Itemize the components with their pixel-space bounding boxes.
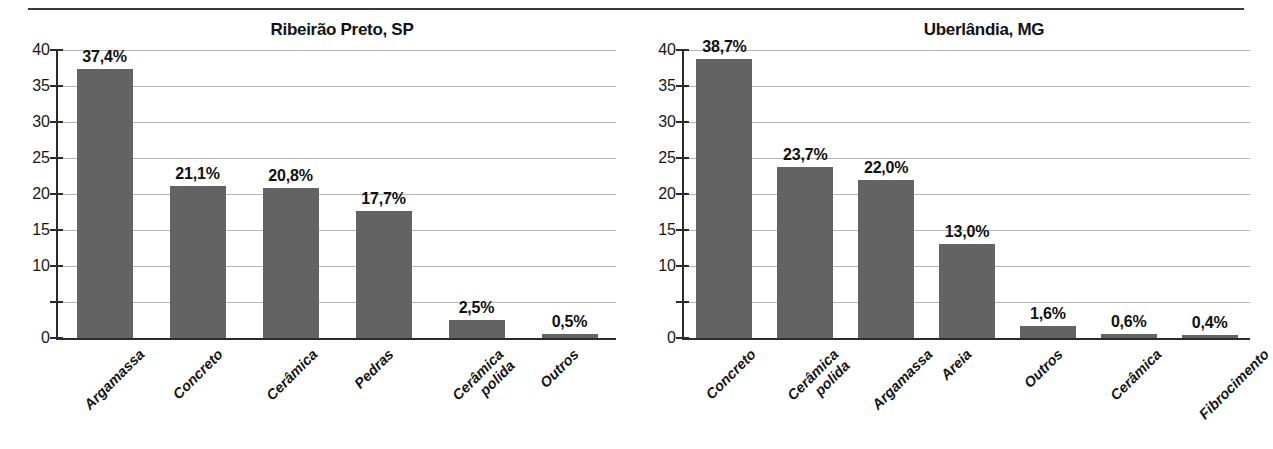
bar-value-label: 13,0% xyxy=(945,223,989,241)
y-axis-tick-label: 20 xyxy=(32,186,50,202)
bar xyxy=(1182,335,1238,338)
bar-series-left: 37,4%21,1%20,8%17,7%2,5%0,5% xyxy=(58,50,616,338)
grid-area-right: 38,7%23,7%22,0%13,0%1,6%0,6%0,4% xyxy=(684,50,1250,340)
x-axis-baseline-left xyxy=(58,338,616,340)
x-axis-category-label: Cerâmicapolida xyxy=(784,346,853,415)
bar-value-label: 0,4% xyxy=(1192,314,1228,332)
y-axis-tick-label: 10 xyxy=(32,258,50,274)
bar-group: 37,4% xyxy=(58,50,151,338)
x-axis-category-label: Outros xyxy=(537,346,582,391)
plot-area-left: 010152025303540 37,4%21,1%20,8%17,7%2,5%… xyxy=(16,50,616,340)
x-axis-category-label: Concreto xyxy=(703,346,759,402)
y-axis-tick xyxy=(676,337,689,339)
bar-value-label: 2,5% xyxy=(459,299,495,317)
y-axis-tick xyxy=(50,229,63,231)
x-axis-label-slot: Argamassa xyxy=(846,342,927,449)
y-axis-tick-label: 15 xyxy=(32,222,50,238)
bar xyxy=(356,211,412,338)
x-axis-label-slot: Cerâmicapolida xyxy=(430,342,523,449)
bar-value-label: 20,8% xyxy=(268,167,312,185)
bar-group: 0,4% xyxy=(1169,50,1250,338)
bar-value-label: 1,6% xyxy=(1030,305,1066,323)
bar xyxy=(449,320,505,338)
chart-title-right: Uberlândia, MG xyxy=(632,20,1273,40)
x-axis-category-label: Concreto xyxy=(170,346,226,402)
y-axis-tick-label: 10 xyxy=(658,258,676,274)
x-axis-baseline-right xyxy=(684,338,1250,340)
x-axis-label-slot: Concreto xyxy=(151,342,244,449)
bar-value-label: 23,7% xyxy=(783,146,827,164)
y-axis-tick-label: 15 xyxy=(658,222,676,238)
y-axis-tick-label: 35 xyxy=(658,78,676,94)
y-axis-tick xyxy=(676,121,689,123)
x-axis-category-label: Areia xyxy=(937,346,974,383)
y-axis-labels-left: 010152025303540 xyxy=(16,50,50,340)
x-axis-category-label: Argamassa xyxy=(81,346,148,413)
chart-panel-uberlandia: Uberlândia, MG 010152025303540 38,7%23,7… xyxy=(632,12,1264,449)
bar-series-right: 38,7%23,7%22,0%13,0%1,6%0,6%0,4% xyxy=(684,50,1250,338)
bar-group: 21,1% xyxy=(151,50,244,338)
x-axis-category-label: Cerâmica xyxy=(263,346,321,404)
x-axis-category-label: Cerâmicapolida xyxy=(449,346,518,415)
bar-group: 20,8% xyxy=(244,50,337,338)
plot-area-right: 010152025303540 38,7%23,7%22,0%13,0%1,6%… xyxy=(642,50,1250,340)
bar-group: 13,0% xyxy=(927,50,1008,338)
bar xyxy=(542,334,598,338)
x-axis-category-label: Pedras xyxy=(351,346,397,392)
y-axis-tick-label: 40 xyxy=(32,42,50,58)
bar-group: 1,6% xyxy=(1007,50,1088,338)
y-axis-tick xyxy=(50,85,63,87)
x-axis-category-label: Argamassa xyxy=(869,346,936,413)
bar xyxy=(263,188,319,338)
y-axis-tick xyxy=(676,193,689,195)
y-axis-tick-label: 25 xyxy=(32,150,50,166)
y-axis-tick-label: 25 xyxy=(658,150,676,166)
chart-panel-ribeirao-preto: Ribeirão Preto, SP 010152025303540 37,4%… xyxy=(0,12,632,449)
bar xyxy=(939,244,995,338)
bar-group: 0,5% xyxy=(523,50,616,338)
y-axis-tick xyxy=(676,157,689,159)
bar xyxy=(696,59,752,338)
y-axis-tick xyxy=(676,265,689,267)
y-axis-tick xyxy=(676,49,689,51)
bar-value-label: 38,7% xyxy=(702,38,746,56)
x-axis-label-slot: Fibrocimento xyxy=(1169,342,1250,449)
x-axis-category-label: Cerâmica xyxy=(1107,346,1165,404)
bar-value-label: 37,4% xyxy=(82,48,126,66)
bar-value-label: 17,7% xyxy=(361,190,405,208)
bar-value-label: 0,6% xyxy=(1111,313,1147,331)
y-axis-tick-label: 20 xyxy=(658,186,676,202)
x-axis-label-slot: Outros xyxy=(523,342,616,449)
x-axis-label-slot: Concreto xyxy=(684,342,765,449)
bar-group: 2,5% xyxy=(430,50,523,338)
bar xyxy=(77,69,133,338)
y-axis-tick-label: 30 xyxy=(32,114,50,130)
y-axis-tick xyxy=(50,265,63,267)
y-axis-tick-label: 0 xyxy=(667,330,676,346)
y-axis-tick xyxy=(50,301,63,303)
y-axis-tick xyxy=(50,193,63,195)
x-axis-label-slot: Argamassa xyxy=(58,342,151,449)
bar-value-label: 0,5% xyxy=(552,313,588,331)
x-axis-label-slot: Pedras xyxy=(337,342,430,449)
bar-group: 0,6% xyxy=(1088,50,1169,338)
bar xyxy=(1020,326,1076,338)
bar-value-label: 22,0% xyxy=(864,159,908,177)
bar xyxy=(858,180,914,338)
chart-title-left: Ribeirão Preto, SP xyxy=(0,20,658,40)
y-axis-tick-label: 40 xyxy=(658,42,676,58)
x-axis-label-slot: Cerâmicapolida xyxy=(765,342,846,449)
x-axis-label-slot: Outros xyxy=(1007,342,1088,449)
y-axis-tick xyxy=(50,49,63,51)
y-axis-tick-label: 30 xyxy=(658,114,676,130)
y-axis-tick-label: 35 xyxy=(32,78,50,94)
y-axis-tick xyxy=(50,337,63,339)
bar-group: 38,7% xyxy=(684,50,765,338)
x-axis-labels-left: ArgamassaConcretoCerâmicaPedrasCerâmicap… xyxy=(58,342,616,449)
bar-group: 17,7% xyxy=(337,50,430,338)
bar xyxy=(170,186,226,338)
bar-group: 23,7% xyxy=(765,50,846,338)
y-axis-labels-right: 010152025303540 xyxy=(642,50,676,340)
y-axis-tick xyxy=(50,121,63,123)
charts-container: Ribeirão Preto, SP 010152025303540 37,4%… xyxy=(0,12,1264,449)
